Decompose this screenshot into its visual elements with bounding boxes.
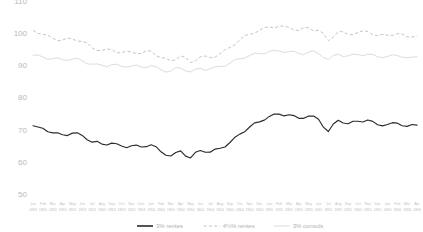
x-axis-year-21: 1864	[236, 208, 244, 212]
x-axis-month-4: May	[69, 202, 76, 206]
x-axis-year-3: 1863	[59, 208, 67, 212]
x-axis-year-9: 1863	[118, 208, 126, 212]
x-axis-year-23: 1864	[255, 208, 263, 212]
x-axis-month-37: Feb	[394, 202, 400, 206]
x-axis-year-31: 1865	[334, 208, 342, 212]
x-axis-month-29: Jun	[316, 202, 322, 206]
x-axis-month-3: Apr	[60, 202, 66, 206]
x-axis-month-30: Jul	[326, 202, 331, 206]
x-axis-year-27: 1865	[295, 208, 303, 212]
x-axis-year-14: 1864	[167, 208, 175, 212]
y-axis-tick-80: 80	[18, 93, 27, 102]
x-axis-month-39: Apr	[414, 202, 420, 206]
x-axis-year-16: 1864	[187, 208, 195, 212]
x-axis-month-16: May	[187, 202, 194, 206]
x-axis-year-28: 1865	[305, 208, 313, 212]
x-axis-year-18: 1864	[206, 208, 214, 212]
x-axis-tick-labels: Jan1863Feb1863Mar1863Apr1863May1863Jun18…	[29, 202, 421, 212]
x-axis-year-30: 1865	[324, 208, 332, 212]
y-axis-tick-90: 90	[18, 61, 27, 70]
x-axis-month-24: Jan	[266, 202, 272, 206]
x-axis-month-2: Mar	[50, 202, 57, 206]
x-axis-year-1: 1863	[39, 208, 47, 212]
x-axis-month-18: Jul	[208, 202, 213, 206]
x-axis-year-11: 1863	[137, 208, 145, 212]
x-axis-year-5: 1863	[78, 208, 86, 212]
x-axis-year-33: 1865	[354, 208, 362, 212]
legend-label-0[interactable]: 3% rentes	[156, 223, 183, 229]
x-axis-year-34: 1865	[364, 208, 372, 212]
y-axis-tick-60: 60	[18, 158, 27, 167]
legend-label-2[interactable]: 3% consols	[293, 223, 324, 229]
x-axis-year-25: 1865	[275, 208, 283, 212]
x-axis-month-12: Jan	[148, 202, 154, 206]
x-axis-month-8: Sep	[109, 202, 115, 206]
x-axis-year-4: 1863	[68, 208, 76, 212]
x-axis-month-19: Aug	[217, 202, 223, 206]
x-axis-month-22: Nov	[246, 202, 253, 206]
x-axis-month-32: Sep	[345, 202, 351, 206]
x-axis-month-1: Feb	[40, 202, 46, 206]
x-axis-year-7: 1863	[98, 208, 106, 212]
y-axis-tick-50: 50	[18, 190, 27, 199]
series-line-1	[33, 26, 417, 63]
x-axis-month-27: Apr	[296, 202, 302, 206]
x-axis-year-0: 1863	[29, 208, 37, 212]
y-axis-tick-labels: 1101009080706050	[14, 0, 28, 199]
series-line-2	[33, 50, 417, 72]
x-axis-year-38: 1866	[403, 208, 411, 212]
x-axis-month-35: Dec	[374, 202, 381, 206]
y-axis-tick-110: 110	[14, 0, 27, 6]
x-axis-month-9: Oct	[119, 202, 125, 206]
x-axis-month-38: Mar	[404, 202, 411, 206]
x-axis-month-15: Apr	[178, 202, 184, 206]
x-axis-month-11: Dec	[138, 202, 145, 206]
chart-series-group	[33, 26, 417, 158]
x-axis-year-32: 1865	[344, 208, 352, 212]
x-axis-year-26: 1865	[285, 208, 293, 212]
x-axis-month-7: Aug	[99, 202, 105, 206]
x-axis-year-39: 1866	[413, 208, 421, 212]
x-axis-year-6: 1863	[88, 208, 96, 212]
x-axis-month-0: Jan	[30, 202, 36, 206]
line-chart-canvas: 1101009080706050 Jan1863Feb1863Mar1863Ap…	[0, 0, 423, 232]
x-axis-month-23: Dec	[256, 202, 263, 206]
x-axis-month-34: Nov	[365, 202, 372, 206]
chart-container: 1101009080706050 Jan1863Feb1863Mar1863Ap…	[0, 0, 423, 232]
x-axis-month-21: Oct	[237, 202, 243, 206]
x-axis-month-5: Jun	[79, 202, 85, 206]
x-axis-month-28: May	[305, 202, 312, 206]
x-axis-year-29: 1865	[315, 208, 323, 212]
chart-legend: 3% rentes4½% rentes3% consols	[137, 223, 323, 229]
x-axis-year-19: 1864	[216, 208, 224, 212]
x-axis-year-17: 1864	[196, 208, 204, 212]
x-axis-month-17: Jun	[197, 202, 203, 206]
x-axis-month-6: Jul	[90, 202, 95, 206]
x-axis-year-10: 1863	[127, 208, 135, 212]
x-axis-month-31: Aug	[335, 202, 341, 206]
x-axis-year-36: 1866	[383, 208, 391, 212]
x-axis-month-26: Mar	[286, 202, 293, 206]
x-axis-year-22: 1864	[246, 208, 254, 212]
x-axis-year-37: 1866	[393, 208, 401, 212]
series-line-0	[33, 114, 417, 158]
x-axis-year-15: 1864	[177, 208, 185, 212]
x-axis-month-13: Feb	[158, 202, 164, 206]
y-axis-tick-70: 70	[18, 126, 27, 135]
legend-label-1[interactable]: 4½% rentes	[223, 223, 255, 229]
x-axis-month-20: Sep	[227, 202, 233, 206]
y-axis-tick-100: 100	[14, 29, 28, 38]
x-axis-year-24: 1865	[265, 208, 273, 212]
x-axis-year-35: 1865	[374, 208, 382, 212]
x-axis-month-10: Nov	[128, 202, 135, 206]
x-axis-year-8: 1863	[108, 208, 116, 212]
x-axis-month-25: Feb	[276, 202, 282, 206]
x-axis-year-20: 1864	[226, 208, 234, 212]
x-axis-year-13: 1864	[157, 208, 165, 212]
x-axis-month-33: Oct	[355, 202, 361, 206]
x-axis-year-12: 1864	[147, 208, 155, 212]
x-axis-month-36: Jan	[385, 202, 391, 206]
x-axis-year-2: 1863	[49, 208, 57, 212]
x-axis-month-14: Mar	[168, 202, 175, 206]
